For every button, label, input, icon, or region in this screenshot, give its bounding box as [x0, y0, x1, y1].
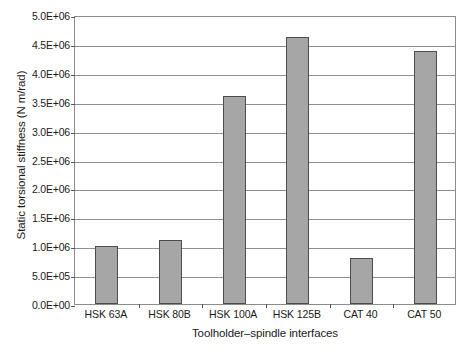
- y-tick-label: 1.5E+06: [26, 212, 70, 224]
- x-tick-label: HSK 100A: [209, 308, 257, 320]
- x-tick-label: HSK 125B: [273, 308, 321, 320]
- y-tick-label: 4.5E+06: [26, 39, 70, 51]
- gridline: [75, 162, 455, 163]
- y-tick-label: 4.0E+06: [26, 68, 70, 80]
- x-axis-title: Toolholder–spindle interfaces: [74, 327, 456, 339]
- x-axis-tick-labels: HSK 63AHSK 80BHSK 100AHSK 125BCAT 40CAT …: [74, 308, 456, 324]
- bar-chart: Static torsional stiffness (N m/rad) 0.0…: [0, 0, 470, 357]
- y-tick-mark: [71, 75, 75, 76]
- gridline: [75, 190, 455, 191]
- y-tick-mark: [71, 17, 75, 18]
- bar: [350, 258, 373, 304]
- x-tick-label: CAT 40: [343, 308, 377, 320]
- y-tick-label: 3.5E+06: [26, 97, 70, 109]
- bar: [286, 37, 309, 304]
- gridline: [75, 133, 455, 134]
- plot-area: [74, 16, 456, 305]
- y-tick-label: 2.5E+06: [26, 155, 70, 167]
- y-tick-label: 5.0E+05: [26, 270, 70, 282]
- y-tick-mark: [71, 133, 75, 134]
- y-tick-mark: [71, 104, 75, 105]
- x-tick-label: HSK 63A: [85, 308, 128, 320]
- bar: [159, 240, 182, 304]
- gridline: [75, 248, 455, 249]
- y-tick-mark: [71, 162, 75, 163]
- bar: [95, 246, 118, 304]
- y-tick-mark: [71, 277, 75, 278]
- y-tick-label: 0.0E+00: [26, 299, 70, 311]
- y-tick-label: 2.0E+06: [26, 183, 70, 195]
- gridline: [75, 277, 455, 278]
- x-tick-label: HSK 80B: [148, 308, 191, 320]
- gridline: [75, 75, 455, 76]
- bar: [223, 96, 246, 304]
- bar: [414, 51, 437, 304]
- gridline: [75, 219, 455, 220]
- y-tick-label: 3.0E+06: [26, 126, 70, 138]
- gridline: [75, 46, 455, 47]
- x-tick-label: CAT 50: [407, 308, 441, 320]
- y-tick-mark: [71, 306, 75, 307]
- y-tick-label: 5.0E+06: [26, 10, 70, 22]
- y-tick-mark: [71, 248, 75, 249]
- y-tick-mark: [71, 219, 75, 220]
- y-tick-mark: [71, 190, 75, 191]
- y-axis-tick-labels: 0.0E+005.0E+051.0E+061.5E+062.0E+062.5E+…: [26, 0, 70, 357]
- y-tick-label: 1.0E+06: [26, 241, 70, 253]
- y-tick-mark: [71, 46, 75, 47]
- gridline: [75, 104, 455, 105]
